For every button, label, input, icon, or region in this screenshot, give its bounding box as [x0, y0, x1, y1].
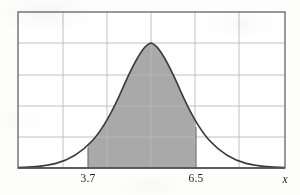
x-tick-label-lower: 3.7	[81, 172, 96, 184]
figure-page: 3.7 6.5 x	[0, 0, 300, 195]
x-axis-label: x	[282, 173, 287, 185]
x-tick-label-upper: 6.5	[189, 172, 204, 184]
normal-curve-figure	[0, 0, 300, 195]
